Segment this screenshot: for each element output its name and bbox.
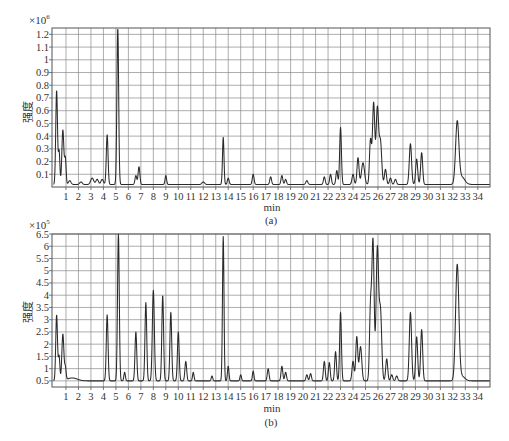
svg-text:1: 1 xyxy=(63,391,68,402)
svg-text:4: 4 xyxy=(101,191,107,202)
svg-text:5: 5 xyxy=(113,391,118,402)
svg-text:0.7: 0.7 xyxy=(36,92,49,103)
svg-text:11: 11 xyxy=(186,191,196,202)
svg-text:1.1: 1.1 xyxy=(36,42,49,53)
svg-text:2: 2 xyxy=(76,191,81,202)
svg-text:15: 15 xyxy=(235,391,246,402)
y-axis-label-b: 强度 xyxy=(21,301,35,323)
svg-text:29: 29 xyxy=(410,391,421,402)
svg-text:12: 12 xyxy=(198,391,209,402)
svg-text:4: 4 xyxy=(44,290,50,301)
svg-text:0.4: 0.4 xyxy=(36,131,50,142)
svg-text:9: 9 xyxy=(163,391,168,402)
svg-text:31: 31 xyxy=(435,191,446,202)
svg-text:5: 5 xyxy=(113,191,118,202)
svg-text:0.5: 0.5 xyxy=(36,375,49,386)
svg-text:31: 31 xyxy=(435,391,446,402)
svg-text:32: 32 xyxy=(448,391,459,402)
svg-text:28: 28 xyxy=(398,191,409,202)
svg-text:25: 25 xyxy=(360,391,371,402)
svg-text:6: 6 xyxy=(126,191,131,202)
svg-text:7: 7 xyxy=(138,191,143,202)
svg-text:34: 34 xyxy=(473,191,484,202)
svg-text:22: 22 xyxy=(323,191,334,202)
svg-text:13: 13 xyxy=(210,191,221,202)
chromatogram-figure: 0.10.20.30.40.50.60.70.80.911.11.2 12345… xyxy=(0,0,509,441)
svg-text:20: 20 xyxy=(298,191,309,202)
svg-text:11: 11 xyxy=(186,391,196,402)
svg-text:0.5: 0.5 xyxy=(36,118,49,129)
svg-text:19: 19 xyxy=(285,191,296,202)
svg-text:23: 23 xyxy=(335,191,346,202)
y-axis-a: 0.10.20.30.40.50.60.70.80.911.11.2 xyxy=(36,29,52,180)
svg-text:30: 30 xyxy=(423,191,434,202)
caption-a: (a) xyxy=(265,214,278,227)
x-axis-label-b: min xyxy=(263,402,281,414)
svg-text:4: 4 xyxy=(101,391,107,402)
svg-text:0.3: 0.3 xyxy=(36,143,49,154)
svg-text:22: 22 xyxy=(323,391,334,402)
svg-text:0.8: 0.8 xyxy=(36,80,49,91)
svg-text:24: 24 xyxy=(348,391,359,402)
svg-text:33: 33 xyxy=(460,391,471,402)
svg-text:19: 19 xyxy=(285,391,296,402)
svg-text:25: 25 xyxy=(360,191,371,202)
svg-text:0.1: 0.1 xyxy=(36,169,49,180)
svg-text:3: 3 xyxy=(88,191,93,202)
svg-text:24: 24 xyxy=(348,191,359,202)
chromatogram-panel-a: 0.10.20.30.40.50.60.70.80.911.11.2 12345… xyxy=(21,13,490,227)
svg-text:23: 23 xyxy=(335,391,346,402)
y-axis-b: 0.511.522.533.544.555.566.5 xyxy=(36,229,52,387)
svg-text:5: 5 xyxy=(44,265,49,276)
svg-text:6: 6 xyxy=(44,241,49,252)
svg-text:6: 6 xyxy=(126,391,131,402)
svg-text:17: 17 xyxy=(260,391,271,402)
svg-text:20: 20 xyxy=(298,391,309,402)
svg-text:2.5: 2.5 xyxy=(36,326,49,337)
svg-text:1.2: 1.2 xyxy=(36,29,49,40)
svg-text:27: 27 xyxy=(385,391,396,402)
svg-text:27: 27 xyxy=(385,191,396,202)
svg-text:14: 14 xyxy=(223,391,234,402)
svg-text:18: 18 xyxy=(273,391,284,402)
svg-text:10: 10 xyxy=(173,191,184,202)
svg-text:4.5: 4.5 xyxy=(36,277,49,288)
svg-text:7: 7 xyxy=(138,391,143,402)
svg-text:33: 33 xyxy=(460,191,471,202)
y-axis-label-a: 强度 xyxy=(21,101,35,123)
y-multiplier-a: ×106 xyxy=(29,13,50,26)
svg-text:12: 12 xyxy=(198,191,209,202)
svg-text:1: 1 xyxy=(44,54,49,65)
svg-text:3: 3 xyxy=(88,391,93,402)
svg-text:5.5: 5.5 xyxy=(36,253,49,264)
svg-text:3: 3 xyxy=(44,314,49,325)
svg-text:0.9: 0.9 xyxy=(36,67,49,78)
svg-text:2: 2 xyxy=(44,339,49,350)
svg-text:26: 26 xyxy=(373,191,384,202)
svg-text:14: 14 xyxy=(223,191,234,202)
svg-text:1.5: 1.5 xyxy=(36,351,49,362)
chromatogram-panel-b: 0.511.522.533.544.555.566.5 123456789101… xyxy=(21,218,490,429)
x-axis-label-a: min xyxy=(263,201,281,213)
svg-text:26: 26 xyxy=(373,391,384,402)
svg-text:8: 8 xyxy=(151,391,156,402)
x-axis-a: 1234567891011121314151617181920212223242… xyxy=(63,187,483,202)
svg-text:1: 1 xyxy=(63,191,68,202)
svg-text:16: 16 xyxy=(248,391,259,402)
svg-text:0.6: 0.6 xyxy=(36,105,49,116)
svg-text:21: 21 xyxy=(310,391,321,402)
svg-text:0.2: 0.2 xyxy=(36,156,49,167)
svg-text:13: 13 xyxy=(210,391,221,402)
svg-text:30: 30 xyxy=(423,391,434,402)
svg-text:32: 32 xyxy=(448,191,459,202)
svg-text:21: 21 xyxy=(310,191,321,202)
caption-b: (b) xyxy=(265,416,278,429)
svg-text:2: 2 xyxy=(76,391,81,402)
svg-text:29: 29 xyxy=(410,191,421,202)
svg-text:9: 9 xyxy=(163,191,168,202)
x-axis-b: 1234567891011121314151617181920212223242… xyxy=(63,387,483,402)
svg-text:10: 10 xyxy=(173,391,184,402)
svg-text:15: 15 xyxy=(235,191,246,202)
svg-text:1: 1 xyxy=(44,363,49,374)
svg-text:34: 34 xyxy=(473,391,484,402)
